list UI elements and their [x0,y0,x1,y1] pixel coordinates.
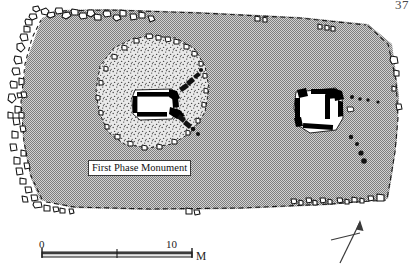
north-arrow [331,220,364,263]
page-number: 37 [395,0,409,13]
central-chamber [132,89,185,120]
scale-label-end: 10 [166,238,177,250]
eastern-structure [294,88,344,133]
site-plan-figure [0,0,415,267]
scale-unit-label: M [196,250,206,262]
first-phase-monument-label: First Phase Monument [88,160,191,176]
scale-label-start: 0 [39,238,45,250]
